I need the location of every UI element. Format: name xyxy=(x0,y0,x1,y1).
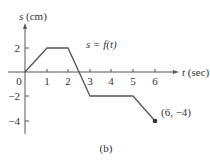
function-label: s = f(t) xyxy=(86,38,117,51)
x-tick-label: 5 xyxy=(130,75,136,87)
x-tick-label: 1 xyxy=(44,75,50,87)
y-tick-label: −4 xyxy=(8,115,20,127)
x-tick-label: 3 xyxy=(87,75,93,87)
x-tick-label: 2 xyxy=(65,75,71,87)
chart: 0 1 2 3 4 5 6 2 −2 −4 s (cm) t (sec) s =… xyxy=(0,0,210,160)
point-annotation: (6, −4) xyxy=(161,106,191,119)
x-tick-label: 4 xyxy=(108,75,114,87)
y-axis-arrow-icon xyxy=(23,23,27,29)
x-tick-label: 6 xyxy=(152,75,158,87)
endpoint-dot xyxy=(153,119,158,124)
y-ticks xyxy=(25,48,29,121)
x-tick-label: 0 xyxy=(16,75,22,87)
y-axis-title: s (cm) xyxy=(19,10,47,23)
x-axis-arrow-icon xyxy=(173,70,179,74)
x-axis-title: t (sec) xyxy=(182,66,210,79)
y-tick-label: 2 xyxy=(15,42,21,54)
y-tick-label: −2 xyxy=(8,90,20,102)
figure-caption: (b) xyxy=(100,142,113,155)
